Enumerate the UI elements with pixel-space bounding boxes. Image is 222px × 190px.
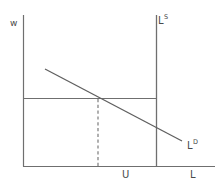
labor-demand-curve [45, 69, 182, 141]
unemployment-label-text: U [122, 169, 129, 180]
y-axis-label: w [10, 19, 17, 28]
unemployment-label: U [122, 170, 129, 180]
labor-demand-label-superscript: D [193, 138, 198, 146]
labor-supply-label-base: L [158, 15, 164, 26]
x-axis-label: L [190, 170, 196, 180]
y-axis-label-text: w [10, 18, 17, 28]
labor-supply-label-superscript: S [164, 13, 168, 21]
x-axis-label-text: L [190, 169, 196, 180]
labor-supply-label: LS [158, 15, 168, 26]
diagram-canvas [0, 0, 222, 190]
labor-market-diagram: w LS LD U L [0, 0, 222, 190]
labor-demand-label: LD [187, 140, 198, 151]
labor-demand-label-base: L [187, 140, 193, 151]
